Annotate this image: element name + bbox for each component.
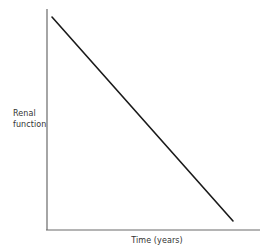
x-axis-label: Time (years) bbox=[0, 235, 269, 246]
chart-figure: Renal function Time (years) bbox=[0, 0, 269, 252]
data-series-line bbox=[52, 17, 233, 221]
y-axis-label: Renal function bbox=[13, 108, 46, 130]
y-axis-label-line-1: Renal bbox=[13, 108, 46, 119]
y-axis-label-line-2: function bbox=[13, 119, 46, 130]
